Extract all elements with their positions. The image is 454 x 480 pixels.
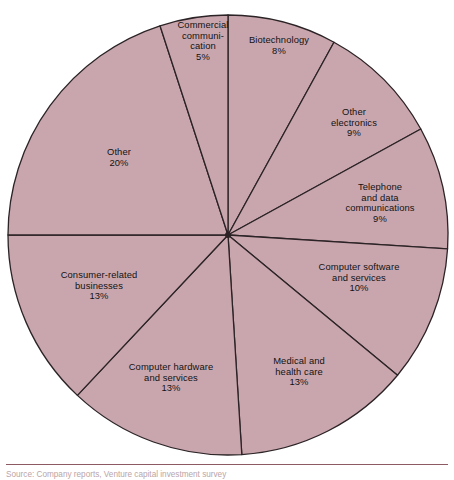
pie-chart-svg [0, 0, 454, 480]
pie-chart-figure: Biotechnology8%Other electronics9%Teleph… [0, 0, 454, 480]
pie-center-hub [225, 232, 231, 238]
source-note: Source: Company reports, Venture capital… [6, 469, 448, 480]
footer-divider [6, 464, 448, 465]
